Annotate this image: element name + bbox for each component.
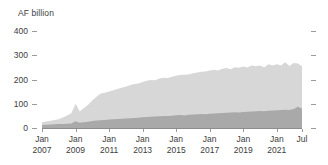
x-tick-label: Jan2007	[33, 134, 52, 155]
x-tick-month: Jul	[297, 134, 308, 144]
x-tick-label: Jan2021	[267, 134, 286, 155]
x-tick-mark	[243, 129, 244, 132]
x-tick-mark	[109, 129, 110, 132]
x-tick-year: 2015	[167, 145, 186, 155]
x-tick-label: Jan2017	[200, 134, 219, 155]
x-tick-mark	[210, 129, 211, 132]
x-tick-month: Jan	[69, 134, 83, 144]
area-chart: AF billion 0100200300400 Jan2007Jan2009J…	[0, 0, 328, 165]
x-tick-mark	[176, 129, 177, 132]
x-tick-label: Jan2019	[234, 134, 253, 155]
x-tick-year: 2019	[234, 145, 253, 155]
x-axis-baseline	[42, 128, 302, 129]
x-tick-month: Jan	[102, 134, 116, 144]
x-tick-month: Jan	[35, 134, 49, 144]
x-tick-label: Jan2009	[66, 134, 85, 155]
x-tick-month: Jan	[136, 134, 150, 144]
x-tick-mark	[143, 129, 144, 132]
x-tick-year: 2017	[200, 145, 219, 155]
x-tick-year: 2021	[267, 145, 286, 155]
x-tick-year: 2007	[33, 145, 52, 155]
x-tick-label: Jul	[297, 134, 308, 144]
x-tick-mark	[277, 129, 278, 132]
x-tick-label: Jan2013	[133, 134, 152, 155]
x-tick-label: Jan2015	[167, 134, 186, 155]
x-tick-year: 2011	[100, 145, 118, 155]
x-tick-mark	[42, 129, 43, 132]
x-tick-mark	[302, 129, 303, 132]
x-tick-year: 2013	[133, 145, 152, 155]
x-tick-month: Jan	[203, 134, 217, 144]
x-tick-year: 2009	[66, 145, 85, 155]
x-tick-mark	[76, 129, 77, 132]
x-tick-month: Jan	[236, 134, 250, 144]
x-tick-month: Jan	[270, 134, 284, 144]
x-tick-month: Jan	[169, 134, 183, 144]
x-tick-label: Jan2011	[100, 134, 118, 155]
